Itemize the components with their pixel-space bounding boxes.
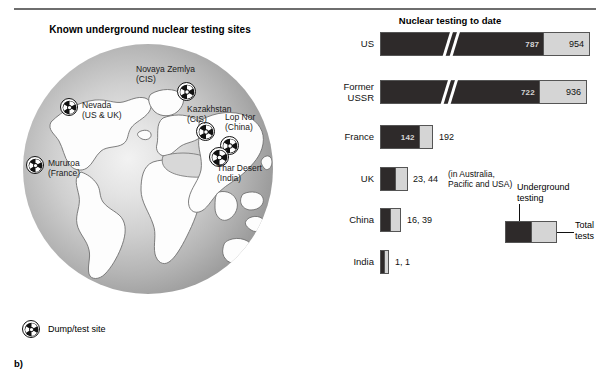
map-legend: Dump/test site [22,320,202,340]
chart-value-france-total: 192 [439,132,454,142]
chart-value-former-ussr-total: 936 [566,87,581,97]
chart-bar-china [380,208,401,232]
chart-row-label-china: China [310,214,374,225]
chart-value-china-total: 16, 39 [407,215,432,225]
figure-label: b) [14,358,23,369]
chart-bar-india [380,250,389,274]
legend-leader-line-underground [519,204,520,222]
chart-row-label-us: US [310,38,374,49]
chart-legend-label-total: Total tests [575,220,594,242]
chart-row-label-india: India [310,256,374,267]
legend-leader-line-total [557,232,574,233]
radiation-icon-nevada [60,98,78,116]
site-label-thar-desert: Thar Desert (India) [217,164,262,183]
radiation-icon-mururoa [26,156,44,174]
globe-container: Nevada (US & UK) Mururoa (France) Novaya… [23,44,273,294]
site-label-mururoa: Mururoa (France) [48,159,80,178]
chart-row-us: US 787 954 [300,32,610,62]
chart-bar-us: 787 954 [380,32,590,56]
chart-bar-former-ussr: 722 936 [380,80,587,104]
map-legend-label: Dump/test site [48,324,106,334]
chart-panel: Nuclear testing to date US 787 954 Forme… [300,0,610,378]
chart-legend-label-underground: Underground testing [517,182,570,204]
chart-value-former-ussr-underground: 722 [521,88,535,97]
legend-swatch-total [531,222,556,242]
map-title: Known underground nuclear testing sites [0,24,300,35]
chart-value-france-underground: 142 [401,133,415,142]
chart-bar-france: 142 [380,125,433,149]
chart-note-uk: (in Australia, Pacific and USA) [448,169,512,189]
radiation-icon-novaya-zemlya [177,82,196,101]
chart-value-uk-total: 23, 44 [413,174,438,184]
chart-title: Nuclear testing to date [300,15,600,26]
chart-legend-swatch [505,221,557,243]
site-label-nevada: Nevada (US & UK) [82,101,122,120]
site-label-novaya-zemlya: Novaya Zemlya (CIS) [136,65,195,84]
chart-row-former-ussr: Former USSR 722 936 [300,80,610,110]
chart-value-india-total: 1, 1 [395,257,410,267]
radiation-icon-kazakhstan [196,122,215,141]
chart-row-france: France 142 192 [300,125,610,155]
chart-row-label-uk: UK [310,173,374,184]
map-panel: Known underground nuclear testing sites [0,0,300,378]
site-label-lop-nor: Lop Nor (China) [225,113,255,132]
chart-value-us-total: 954 [569,39,584,49]
radiation-icon-legend [22,320,40,338]
chart-legend: Underground testing Total tests [505,188,610,258]
chart-bar-uk [380,167,408,191]
legend-swatch-underground [506,222,531,242]
chart-row-label-former-ussr: Former USSR [310,81,374,103]
chart-row-label-france: France [310,131,374,142]
chart-value-us-underground: 787 [525,40,539,49]
